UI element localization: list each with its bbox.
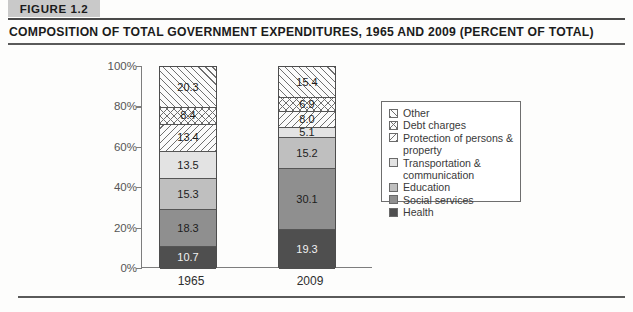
bar-1965[interactable]: 20.38.413.413.515.318.310.7 (159, 66, 217, 268)
legend-item-transportation[interactable]: Transportation & communication (389, 157, 514, 182)
bar-1965-segment-1[interactable]: 20.3 (160, 67, 216, 108)
y-tick-mark-0 (136, 268, 142, 269)
bars-container: 20.38.413.413.515.318.310.715.46.98.05.1… (141, 66, 372, 268)
header-divider-bottom (8, 43, 625, 45)
bar-2009-segment-1[interactable]: 15.4 (279, 67, 335, 98)
legend-swatch-health-icon (389, 208, 398, 217)
bar-1965-segment-7[interactable]: 10.7 (160, 247, 216, 269)
y-axis-labels: 0%20%40%60%80%100% (95, 62, 139, 272)
y-tick-label-20: 20% (114, 222, 137, 234)
bar-2009-value-4: 5.1 (299, 128, 314, 138)
legend-swatch-protection-of-persons-icon (389, 133, 398, 142)
figure-title: COMPOSITION OF TOTAL GOVERNMENT EXPENDIT… (9, 21, 629, 42)
chart-legend: OtherDebt chargesProtection of persons &… (381, 101, 521, 202)
legend-label-other: Other (403, 107, 430, 119)
legend-label-education: Education (403, 181, 450, 193)
bar-1965-segment-6[interactable]: 18.3 (160, 210, 216, 247)
y-tick-label-60: 60% (114, 141, 137, 153)
legend-swatch-debt-charges-icon (389, 121, 398, 130)
bar-1965-value-5: 15.3 (177, 189, 198, 200)
bar-1965-value-6: 18.3 (177, 223, 198, 234)
header-divider-top (8, 18, 625, 20)
legend-label-transportation: Transportation & communication (403, 157, 481, 182)
figure-number-label: FIGURE 1.2 (20, 3, 89, 15)
figure-number-badge: FIGURE 1.2 (8, 0, 100, 17)
legend-swatch-social-services-icon (389, 195, 398, 204)
legend-label-health: Health (403, 206, 434, 218)
bar-1965-value-2: 8.4 (180, 110, 195, 121)
bar-2009-value-5: 15.2 (296, 148, 317, 159)
figure-container: FIGURE 1.2 COMPOSITION OF TOTAL GOVERNME… (0, 0, 633, 312)
bar-1965-segment-5[interactable]: 15.3 (160, 179, 216, 210)
figure-footer-divider (18, 296, 625, 298)
legend-item-social-services[interactable]: Social services (389, 194, 514, 206)
legend-item-other[interactable]: Other (389, 107, 514, 119)
legend-swatch-education-icon (389, 183, 398, 192)
bar-2009-segment-3[interactable]: 8.0 (279, 112, 335, 128)
y-tick-label-100: 100% (108, 60, 137, 72)
bar-1965-value-7: 10.7 (177, 252, 198, 263)
bar-2009-segment-4[interactable]: 5.1 (279, 128, 335, 138)
x-axis-label-2009: 2009 (270, 274, 350, 288)
legend-label-debt-charges: Debt charges (403, 119, 466, 131)
bar-1965-segment-2[interactable]: 8.4 (160, 108, 216, 125)
y-tick-label-0: 0% (120, 262, 137, 274)
bar-2009[interactable]: 15.46.98.05.115.230.119.3 (278, 66, 336, 268)
bar-2009-value-2: 6.9 (299, 99, 314, 110)
bar-2009-value-1: 15.4 (296, 77, 317, 88)
legend-item-education[interactable]: Education (389, 181, 514, 193)
legend-label-protection-of-persons: Protection of persons & property (403, 132, 513, 157)
bar-2009-segment-7[interactable]: 19.3 (279, 230, 335, 269)
y-tick-label-80: 80% (114, 100, 137, 112)
bar-2009-segment-2[interactable]: 6.9 (279, 98, 335, 112)
legend-item-protection-of-persons[interactable]: Protection of persons & property (389, 132, 514, 157)
legend-item-health[interactable]: Health (389, 206, 514, 218)
bar-2009-value-3: 8.0 (299, 114, 314, 125)
bar-2009-value-6: 30.1 (296, 194, 317, 205)
bar-1965-segment-3[interactable]: 13.4 (160, 125, 216, 152)
legend-swatch-other-icon (389, 109, 398, 118)
legend-label-social-services: Social services (403, 194, 474, 206)
bar-1965-segment-4[interactable]: 13.5 (160, 152, 216, 179)
bar-2009-value-7: 19.3 (296, 244, 317, 255)
bar-1965-value-3: 13.4 (177, 132, 198, 143)
legend-item-debt-charges[interactable]: Debt charges (389, 119, 514, 131)
bar-2009-segment-5[interactable]: 15.2 (279, 138, 335, 169)
bar-1965-value-1: 20.3 (177, 82, 198, 93)
x-axis-label-1965: 1965 (151, 274, 231, 288)
y-tick-label-40: 40% (114, 181, 137, 193)
chart-plot-area: 20.38.413.413.515.318.310.715.46.98.05.1… (141, 62, 372, 272)
legend-swatch-transportation-icon (389, 158, 398, 167)
bar-1965-value-4: 13.5 (177, 160, 198, 171)
bar-2009-segment-6[interactable]: 30.1 (279, 169, 335, 230)
